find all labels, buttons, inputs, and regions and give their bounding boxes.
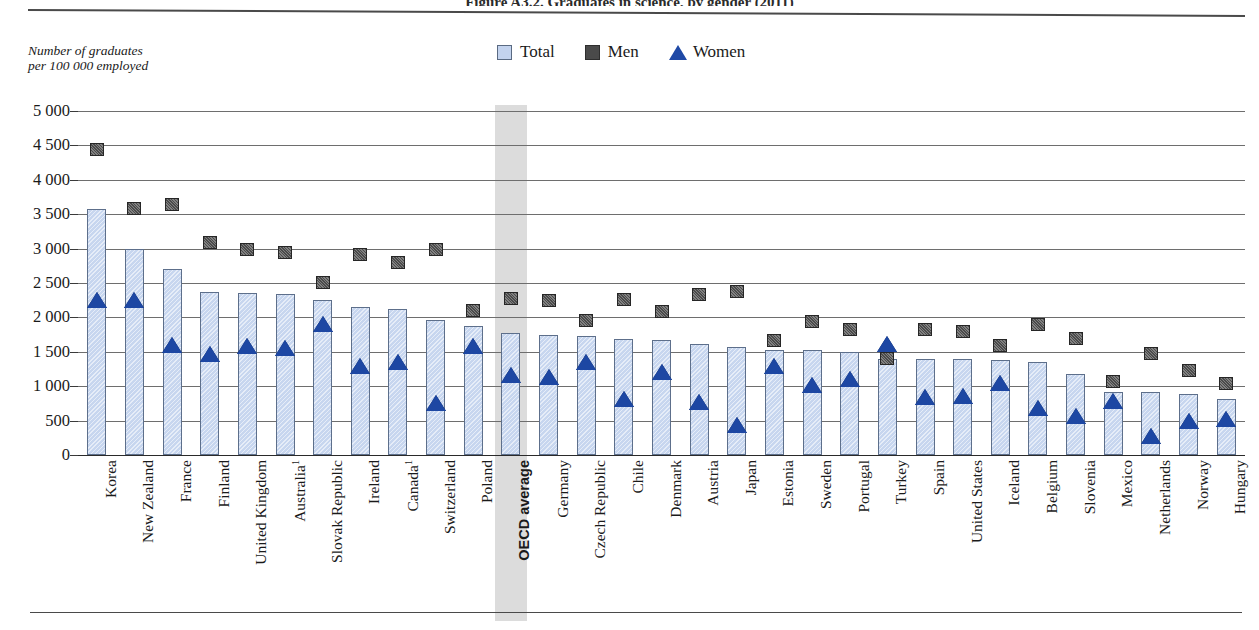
marker-men[interactable] (918, 323, 932, 336)
marker-men[interactable] (353, 248, 367, 261)
bar-total[interactable] (727, 347, 746, 455)
marker-men[interactable] (617, 293, 631, 306)
y-axis-tick-label: 2 500 (14, 275, 70, 292)
marker-women[interactable] (802, 377, 822, 393)
marker-men[interactable] (240, 243, 254, 256)
marker-men[interactable] (1144, 347, 1158, 360)
bar-total[interactable] (87, 209, 106, 455)
bar-total[interactable] (351, 307, 370, 455)
marker-women[interactable] (953, 388, 973, 404)
marker-men[interactable] (843, 323, 857, 336)
marker-men[interactable] (730, 285, 744, 298)
bar-total[interactable] (501, 333, 520, 455)
marker-women[interactable] (1179, 413, 1199, 429)
marker-men[interactable] (655, 305, 669, 318)
bar-total[interactable] (916, 359, 935, 455)
x-axis-label-germany: Germany (555, 460, 571, 518)
marker-men[interactable] (90, 143, 104, 156)
legend-item-women[interactable]: Women (669, 42, 745, 62)
marker-women[interactable] (124, 292, 144, 308)
marker-men[interactable] (504, 292, 518, 305)
bar-total[interactable] (276, 294, 295, 455)
marker-women[interactable] (237, 338, 257, 354)
x-axis-label-slovenia: Slovenia (1082, 460, 1098, 514)
marker-men[interactable] (391, 256, 405, 269)
legend-item-men[interactable]: Men (585, 42, 639, 62)
bar-total[interactable] (991, 360, 1010, 455)
marker-men[interactable] (880, 352, 894, 365)
marker-women[interactable] (689, 394, 709, 410)
gridline (78, 111, 1245, 112)
x-axis-label-estonia: Estonia (780, 460, 796, 507)
bar-total[interactable] (539, 335, 558, 455)
y-axis-tick-label: 1 000 (14, 378, 70, 395)
marker-men[interactable] (466, 304, 480, 317)
marker-women[interactable] (275, 340, 295, 356)
marker-women[interactable] (877, 336, 897, 352)
y-axis-tick (70, 111, 78, 112)
bar-total[interactable] (426, 320, 445, 455)
bar-total[interactable] (1141, 392, 1160, 455)
marker-women[interactable] (1028, 400, 1048, 416)
bar-total[interactable] (200, 292, 219, 455)
marker-men[interactable] (692, 288, 706, 301)
marker-women[interactable] (1066, 408, 1086, 424)
bar-total[interactable] (163, 269, 182, 455)
bar-total[interactable] (878, 359, 897, 455)
marker-men[interactable] (165, 198, 179, 211)
marker-men[interactable] (542, 294, 556, 307)
marker-men[interactable] (805, 315, 819, 328)
square-swatch-icon (585, 45, 600, 60)
marker-women[interactable] (162, 337, 182, 353)
x-axis-label-sweden: Sweden (818, 460, 834, 509)
marker-women[interactable] (87, 292, 107, 308)
marker-men[interactable] (429, 243, 443, 256)
marker-women[interactable] (764, 358, 784, 374)
marker-men[interactable] (1106, 375, 1120, 388)
marker-women[interactable] (350, 358, 370, 374)
marker-men[interactable] (1182, 364, 1196, 377)
marker-women[interactable] (200, 346, 220, 362)
y-axis-tick-label: 5 000 (14, 103, 70, 120)
marker-men[interactable] (1069, 332, 1083, 345)
legend-item-total[interactable]: Total (497, 42, 555, 62)
marker-women[interactable] (501, 367, 521, 383)
marker-women[interactable] (990, 375, 1010, 391)
y-axis-tick-label: 3 500 (14, 206, 70, 223)
bar-total[interactable] (840, 352, 859, 455)
marker-women[interactable] (840, 371, 860, 387)
marker-men[interactable] (1031, 318, 1045, 331)
marker-women[interactable] (1141, 428, 1161, 444)
marker-women[interactable] (539, 369, 559, 385)
marker-women[interactable] (1216, 411, 1236, 427)
marker-men[interactable] (767, 334, 781, 347)
bar-total[interactable] (238, 293, 257, 455)
x-axis-label-united-kingdom: United Kingdom (253, 460, 269, 565)
marker-men[interactable] (316, 276, 330, 289)
x-axis-label-slovak-republic: Slovak Republic (329, 460, 345, 563)
x-axis-label-canada: Canada1 (404, 460, 421, 511)
bar-total[interactable] (652, 340, 671, 455)
marker-men[interactable] (203, 236, 217, 249)
marker-men[interactable] (993, 339, 1007, 352)
marker-women[interactable] (915, 389, 935, 405)
bar-total[interactable] (125, 249, 144, 455)
marker-women[interactable] (313, 316, 333, 332)
marker-women[interactable] (652, 364, 672, 380)
marker-women[interactable] (1103, 393, 1123, 409)
marker-women[interactable] (426, 395, 446, 411)
marker-men[interactable] (956, 325, 970, 338)
bar-total[interactable] (388, 309, 407, 455)
marker-women[interactable] (463, 338, 483, 354)
marker-men[interactable] (278, 246, 292, 259)
marker-women[interactable] (576, 354, 596, 370)
marker-women[interactable] (727, 417, 747, 433)
marker-men[interactable] (1219, 377, 1233, 390)
marker-women[interactable] (388, 354, 408, 370)
bar-total[interactable] (953, 359, 972, 455)
x-axis-label-switzerland: Switzerland (442, 460, 458, 534)
marker-women[interactable] (614, 391, 634, 407)
marker-men[interactable] (579, 314, 593, 327)
marker-men[interactable] (127, 202, 141, 215)
bar-total[interactable] (803, 350, 822, 455)
